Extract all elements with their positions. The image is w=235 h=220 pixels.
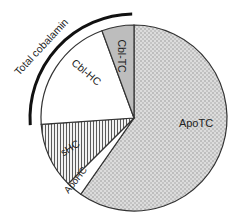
slice-label-apotc: ApoTC [179,117,213,129]
pie-chart: Total cobalamin ApoTC Cbl-HC Cbl-TC sHC … [0,0,235,220]
slice-label-cbltc: Cbl-TC [116,39,128,73]
